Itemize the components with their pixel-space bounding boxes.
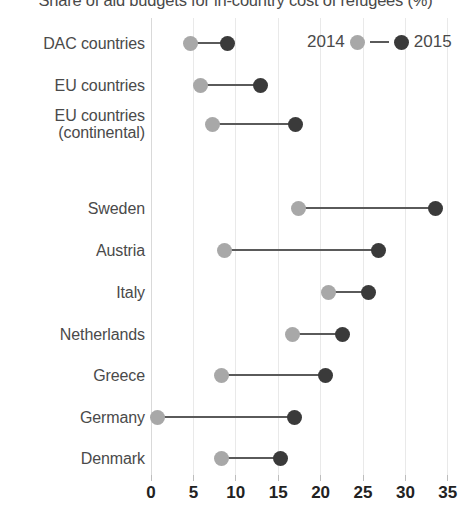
dumbbell-connector [200,84,260,86]
data-point-2014 [217,243,232,258]
data-point-2014 [183,36,198,51]
gridline-10 [235,18,236,475]
data-point-2014 [291,201,306,216]
x-tick-label-20: 20 [311,483,330,503]
x-tick-label-35: 35 [438,483,457,503]
data-point-2015 [273,451,288,466]
gridline-35 [447,18,448,475]
category-label: Netherlands [60,326,145,343]
x-tick-label-15: 15 [269,483,288,503]
data-point-2015 [428,201,443,216]
category-label: Italy [116,284,145,301]
dumbbell-connector [221,374,325,376]
dumbbell-connector [225,249,378,251]
data-point-2014 [321,285,336,300]
data-point-2014 [193,78,208,93]
x-tick-mark-25 [363,475,364,481]
data-point-2014 [285,327,300,342]
dumbbell-chart: Share of aid budgets for in-country cost… [0,0,471,517]
x-tick-label-10: 10 [226,483,245,503]
dumbbell-connector [158,416,295,418]
category-label: EU countries [55,77,145,94]
gridline-30 [405,18,406,475]
category-label: Greece [93,367,145,384]
dumbbell-connector [221,457,280,459]
category-label: EU countries (continental) [55,107,145,141]
gridline-0 [151,18,152,475]
data-point-2015 [288,117,303,132]
plot-area: 05101520253035DAC countriesEU countriesE… [0,0,471,480]
legend-label-2015: 2015 [414,32,452,52]
x-tick-mark-15 [278,475,279,481]
category-label: Germany [80,409,145,426]
data-point-2014 [214,368,229,383]
x-tick-label-0: 0 [146,483,155,503]
category-label: DAC countries [43,35,145,52]
x-tick-mark-5 [193,475,194,481]
gridline-15 [278,18,279,475]
category-label: Sweden [88,200,145,217]
x-tick-label-25: 25 [354,483,373,503]
chart-legend: 2014 2015 [307,31,452,53]
data-point-2015 [287,410,302,425]
gridline-20 [320,18,321,475]
dumbbell-connector [299,207,436,209]
x-tick-label-5: 5 [189,483,198,503]
x-tick-label-30: 30 [396,483,415,503]
data-point-2014 [214,451,229,466]
data-point-2015 [335,327,350,342]
legend-connector [370,41,389,43]
legend-dot-2015 [394,35,409,50]
x-tick-mark-35 [447,475,448,481]
data-point-2014 [150,410,165,425]
legend-dot-2014 [350,35,365,50]
gridline-25 [363,18,364,475]
data-point-2015 [253,78,268,93]
category-label: Denmark [81,450,145,467]
data-point-2015 [318,368,333,383]
x-tick-mark-30 [405,475,406,481]
data-point-2015 [220,36,235,51]
data-point-2015 [361,285,376,300]
x-tick-mark-20 [320,475,321,481]
data-point-2014 [205,117,220,132]
dumbbell-connector [213,123,295,125]
category-label: Austria [96,242,145,259]
data-point-2015 [371,243,386,258]
x-tick-mark-10 [235,475,236,481]
x-tick-mark-0 [151,475,152,481]
legend-label-2014: 2014 [307,32,345,52]
